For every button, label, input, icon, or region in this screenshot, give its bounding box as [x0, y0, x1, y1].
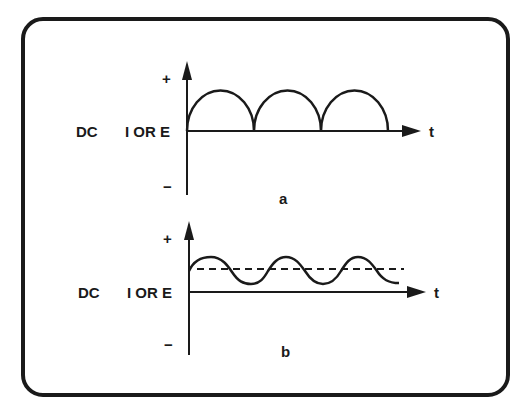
ripple-wave-b [189, 257, 399, 284]
time-label-b: t [434, 284, 439, 301]
y-axis-arrow-b [184, 221, 194, 240]
outer-frame [23, 19, 508, 395]
caption-a: a [279, 190, 288, 207]
y-axis-arrow-a [182, 61, 192, 80]
dc-label-a: DC [76, 123, 98, 140]
dc-waveform-diagram: + − DC I OR E t a + − DC I OR E t b [0, 0, 521, 412]
rectified-wave-a [187, 90, 388, 131]
minus-label-b: − [164, 336, 173, 353]
x-axis-arrow-b [407, 286, 426, 298]
dc-label-b: DC [78, 284, 100, 301]
quantity-label-a: I OR E [125, 123, 170, 140]
x-axis-arrow-a [402, 125, 421, 137]
time-label-a: t [429, 123, 434, 140]
quantity-label-b: I OR E [127, 284, 172, 301]
plus-label-a: + [162, 70, 171, 87]
minus-label-a: − [163, 178, 172, 195]
panel-a: + − DC I OR E t a [76, 61, 434, 207]
plus-label-b: + [163, 230, 172, 247]
caption-b: b [281, 343, 290, 360]
panel-b: + − DC I OR E t b [78, 221, 439, 360]
